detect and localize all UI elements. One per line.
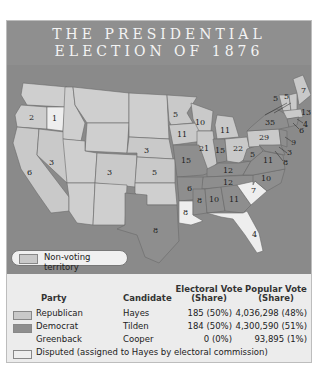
title-line-1: THE PRESIDENTIAL xyxy=(7,26,311,42)
state-colorado xyxy=(95,153,137,187)
label-indiana: 15 xyxy=(215,146,225,155)
label-north-carolina: 10 xyxy=(261,174,271,183)
non-voting-label: Non-voting territory xyxy=(44,252,127,272)
party-greenback: Greenback xyxy=(36,334,82,344)
electoral-hayes: 185 (50%) xyxy=(167,308,232,318)
label-oregon: 2 xyxy=(29,113,34,122)
democrat-swatch xyxy=(13,324,32,333)
popular-cooper: 93,895 (1%) xyxy=(235,334,307,344)
label-iowa: 11 xyxy=(177,130,187,139)
title-line-2: ELECTION OF 1876 xyxy=(7,43,311,59)
label-wisconsin: 10 xyxy=(195,118,205,127)
popular-tilden: 4,300,590 (51%) xyxy=(235,321,307,331)
state-wyoming xyxy=(85,123,129,153)
party-democrat: Democrat xyxy=(36,321,78,331)
us-map-svg: 2 1 6 3 3 3 5 5 11 10 11 21 15 22 29 35 … xyxy=(7,65,311,274)
label-delaware: 3 xyxy=(287,148,292,157)
header-candidate: Candidate xyxy=(123,294,172,303)
republican-swatch xyxy=(13,311,32,320)
header-electoral-vote: Electoral Vote (Share) xyxy=(175,285,243,303)
state-arizona xyxy=(67,183,95,225)
label-louisiana: 8 xyxy=(183,208,188,217)
label-kentucky: 12 xyxy=(223,166,233,175)
label-mississippi: 8 xyxy=(197,196,202,205)
disputed-label: Disputed (assigned to Hayes by electoral… xyxy=(36,347,268,357)
label-vermont: 5 xyxy=(273,94,278,103)
state-dakota xyxy=(129,93,169,139)
label-south-carolina: 7 xyxy=(251,186,256,195)
candidate-hayes: Hayes xyxy=(123,308,149,318)
label-oregon-elector: 1 xyxy=(52,114,57,123)
label-connecticut: 6 xyxy=(299,126,304,135)
popular-hayes: 4,036,298 (48%) xyxy=(235,308,307,318)
label-missouri: 15 xyxy=(181,156,191,165)
label-maryland: 8 xyxy=(283,158,288,167)
label-west-virginia: 5 xyxy=(250,150,255,159)
label-new-jersey: 9 xyxy=(291,138,296,147)
label-nebraska: 3 xyxy=(144,146,149,155)
label-michigan: 11 xyxy=(220,126,230,135)
label-virginia: 11 xyxy=(263,156,273,165)
label-colorado: 3 xyxy=(107,168,112,177)
header-popular-line2: (Share) xyxy=(245,294,307,303)
label-minnesota: 5 xyxy=(173,110,178,119)
state-new-mexico xyxy=(93,183,127,225)
header-popular-vote: Popular Vote (Share) xyxy=(245,285,307,303)
candidate-cooper: Cooper xyxy=(123,334,153,344)
header-electoral-line2: (Share) xyxy=(175,294,243,303)
label-pennsylvania: 29 xyxy=(259,133,269,142)
label-maine: 7 xyxy=(301,86,306,95)
disputed-swatch xyxy=(13,350,32,359)
label-ohio: 22 xyxy=(233,144,243,153)
label-georgia: 11 xyxy=(229,195,239,204)
state-washington xyxy=(21,83,67,107)
label-nevada: 3 xyxy=(49,158,54,167)
label-california: 6 xyxy=(27,168,32,177)
non-voting-legend: Non-voting territory xyxy=(11,250,128,266)
label-texas: 8 xyxy=(153,226,158,235)
title-band: THE PRESIDENTIAL ELECTION OF 1876 xyxy=(7,21,311,65)
label-new-york: 35 xyxy=(265,118,275,127)
non-voting-swatch xyxy=(19,254,38,264)
label-massachusetts: 13 xyxy=(301,108,311,117)
election-map: 2 1 6 3 3 3 5 5 11 10 11 21 15 22 29 35 … xyxy=(7,65,311,274)
label-tennessee: 12 xyxy=(223,178,233,187)
electoral-cooper: 0 (0%) xyxy=(167,334,232,344)
label-arkansas: 6 xyxy=(187,184,192,193)
label-illinois: 21 xyxy=(199,144,209,153)
results-legend: Party Candidate Electoral Vote (Share) P… xyxy=(7,274,311,362)
header-party: Party xyxy=(41,294,67,303)
label-kansas: 5 xyxy=(152,168,157,177)
label-new-hampshire: 5 xyxy=(284,92,289,101)
electoral-tilden: 184 (50%) xyxy=(167,321,232,331)
label-florida: 4 xyxy=(252,230,257,239)
state-massachusetts xyxy=(283,109,303,119)
candidate-tilden: Tilden xyxy=(123,321,149,331)
party-republican: Republican xyxy=(36,308,83,318)
state-connecticut xyxy=(287,117,299,127)
label-alabama: 10 xyxy=(209,195,219,204)
